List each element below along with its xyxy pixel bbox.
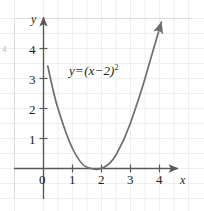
ytick-label-1: 1 bbox=[29, 133, 36, 146]
graph-figure: 0 1 2 3 4 1 2 3 4 x y y=(x−2)2 4 bbox=[0, 0, 204, 211]
xtick-label-0: 0 bbox=[39, 173, 46, 186]
parabola-curve bbox=[48, 22, 162, 169]
equation-minus: − bbox=[94, 63, 103, 78]
page-edge-mark: 4 bbox=[2, 44, 7, 54]
xtick-label-4: 4 bbox=[156, 173, 163, 186]
ytick-label-4: 4 bbox=[29, 43, 36, 56]
xtick-label-1: 1 bbox=[69, 173, 76, 186]
xtick-label-2: 2 bbox=[98, 173, 105, 186]
equation-lhs: y bbox=[69, 63, 75, 78]
xtick-label-3: 3 bbox=[127, 173, 134, 186]
y-axis-label: y bbox=[31, 13, 36, 25]
curve-equation-label: y=(x−2)2 bbox=[69, 64, 118, 77]
ytick-label-2: 2 bbox=[29, 103, 36, 116]
x-axis-label: x bbox=[180, 174, 185, 186]
ytick-label-3: 3 bbox=[29, 73, 36, 86]
equation-equals: = bbox=[75, 63, 84, 78]
equation-exponent: 2 bbox=[114, 63, 118, 72]
